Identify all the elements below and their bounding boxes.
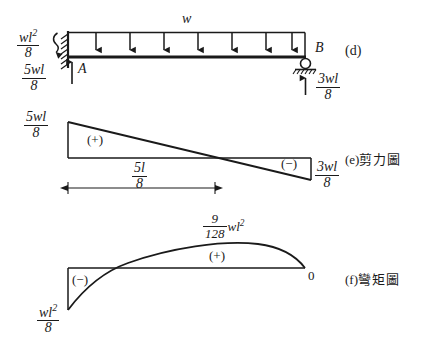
reaction-value-a: 5wl 8 <box>22 63 46 93</box>
panel-caption-d: (d) <box>345 44 361 58</box>
panel-e-shear-geometry <box>68 122 311 194</box>
support-label-a: A <box>78 62 87 76</box>
shear-positive-sign: (+) <box>87 133 103 146</box>
roller-support-b <box>293 59 316 75</box>
moment-right-value: 0 <box>308 269 315 282</box>
support-label-b: B <box>315 41 324 55</box>
fixed-support-a <box>61 31 68 69</box>
shear-line <box>68 122 311 180</box>
moment-left-value: wl2 8 <box>37 303 59 336</box>
shear-negative-sign: (−) <box>281 157 297 170</box>
shear-right-value: 3wl 8 <box>315 160 339 190</box>
panel-f-moment-geometry <box>68 243 305 310</box>
shear-left-value: 5wl 8 <box>24 110 48 140</box>
panel-caption-f: (f)彎矩圖 <box>345 273 400 286</box>
moment-curve <box>68 243 305 310</box>
panel-d-beam-geometry <box>54 31 316 95</box>
moment-positive-sign: (+) <box>209 249 225 262</box>
moment-negative-sign: (−) <box>72 273 88 286</box>
dimension-value-5l-8: 5l 8 <box>132 161 147 191</box>
figure-root: w A B wl2 8 5wl 8 3wl 8 (d) 5wl 8 <box>0 0 423 346</box>
fixed-end-moment-value: wl2 8 <box>17 28 39 61</box>
panel-caption-e: (e)剪力圖 <box>345 153 401 166</box>
load-label-w: w <box>182 12 191 26</box>
moment-peak-value: 9 128 wl2 <box>203 212 244 240</box>
reaction-value-b: 3wl 8 <box>316 72 340 102</box>
distributed-load-arrows <box>96 33 292 50</box>
fixed-end-moment-arrow <box>54 33 59 53</box>
